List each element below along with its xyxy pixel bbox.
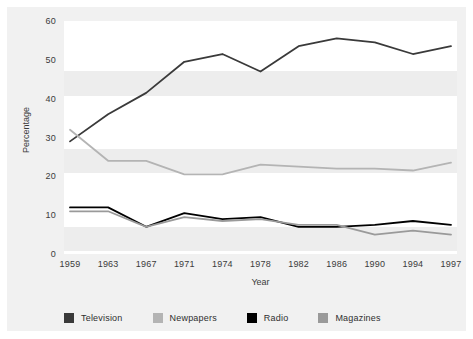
y-tick-label: 60 xyxy=(46,16,56,26)
series-line-newpapers xyxy=(70,130,451,175)
series-line-radio xyxy=(70,207,451,226)
x-tick-label: 1982 xyxy=(288,259,309,269)
series-line-television xyxy=(70,38,451,141)
x-tick-label: 1997 xyxy=(441,259,462,269)
chart-legend: TelevisionNewpapersRadioMagazines xyxy=(64,310,411,326)
legend-item[interactable]: Television xyxy=(64,313,123,323)
top-cropped-text xyxy=(0,0,473,7)
legend-swatch-icon xyxy=(318,313,328,323)
legend-swatch-icon xyxy=(153,313,163,323)
y-tick-label: 50 xyxy=(46,55,56,65)
x-tick-label: 1963 xyxy=(98,259,119,269)
series-lines xyxy=(64,21,457,254)
x-axis-title: Year xyxy=(64,277,457,287)
legend-item[interactable]: Magazines xyxy=(318,313,380,323)
x-tick-label: 1994 xyxy=(402,259,423,269)
legend-label: Newpapers xyxy=(170,313,217,323)
x-tick-label: 1971 xyxy=(174,259,195,269)
legend-item[interactable]: Radio xyxy=(247,313,289,323)
legend-label: Magazines xyxy=(335,313,380,323)
legend-swatch-icon xyxy=(247,313,257,323)
y-tick-label: 0 xyxy=(51,249,56,259)
legend-label: Radio xyxy=(264,313,289,323)
x-tick-label: 1986 xyxy=(326,259,347,269)
y-tick-label: 10 xyxy=(46,210,56,220)
x-tick-label: 1974 xyxy=(212,259,233,269)
y-tick-label: 20 xyxy=(46,171,56,181)
y-tick-label: 40 xyxy=(46,94,56,104)
y-axis-title: Percentage xyxy=(21,85,31,175)
legend-item[interactable]: Newpapers xyxy=(153,313,217,323)
legend-swatch-icon xyxy=(64,313,74,323)
plot-area xyxy=(64,21,457,254)
x-tick-label: 1967 xyxy=(136,259,157,269)
x-tick-label: 1978 xyxy=(250,259,271,269)
chart-screenshot: 0102030405060 19591963196719711974197819… xyxy=(0,0,473,339)
chart-panel: 0102030405060 19591963196719711974197819… xyxy=(7,7,466,331)
y-tick-label: 30 xyxy=(46,133,56,143)
x-tick-label: 1990 xyxy=(364,259,385,269)
y-axis-ticks: 0102030405060 xyxy=(7,7,64,331)
x-axis-ticks: 1959196319671971197419781982198619901994… xyxy=(64,259,457,273)
legend-label: Television xyxy=(81,313,123,323)
x-tick-label: 1959 xyxy=(60,259,81,269)
